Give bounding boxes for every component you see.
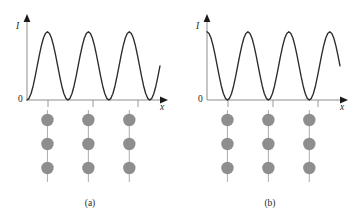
- panel-a-lattice: [0, 108, 180, 193]
- caption-b: (b): [180, 199, 360, 209]
- lattice-atom-dot: [221, 162, 233, 174]
- lattice-atom-dot: [303, 162, 315, 174]
- panel-a-axes: [24, 14, 168, 103]
- lattice-atom-dot: [303, 138, 315, 150]
- origin-label-b: 0: [198, 95, 203, 105]
- lattice-atom-dot: [221, 114, 233, 126]
- origin-label-a: 0: [18, 95, 23, 105]
- lattice-atom-dot: [41, 114, 53, 126]
- lattice-atom-dot: [262, 138, 274, 150]
- panel-b-lattice: [180, 108, 360, 193]
- lattice-atom-dot: [41, 138, 53, 150]
- lattice-atom-dot: [123, 162, 135, 174]
- intensity-curve-a: [27, 32, 160, 100]
- panel-a-xticks: [48, 100, 138, 107]
- lattice-atom-dot: [303, 114, 315, 126]
- lattice-atom-dot: [82, 114, 94, 126]
- panel-b-axes: [204, 14, 348, 103]
- x-axis-label-b: x: [340, 103, 344, 113]
- lattice-atom-dot: [262, 114, 274, 126]
- y-axis-label-b: I: [196, 22, 199, 32]
- intensity-curve-b: [207, 32, 340, 100]
- lattice-atom-dot: [82, 162, 94, 174]
- x-axis-label-a: x: [160, 103, 164, 113]
- diffraction-intensity-figure: I x 0 (a) I x 0 (b): [0, 0, 360, 223]
- caption-a: (a): [0, 199, 180, 209]
- panel-b: I x 0 (b): [180, 0, 360, 223]
- lattice-atom-dot: [221, 138, 233, 150]
- lattice-atom-dot: [262, 162, 274, 174]
- lattice-atom-dot: [41, 162, 53, 174]
- y-axis-label-a: I: [16, 22, 19, 32]
- lattice-atom-dot: [82, 138, 94, 150]
- panel-b-xticks: [228, 100, 318, 107]
- lattice-atom-dot: [123, 114, 135, 126]
- y-axis-arrow-b: [204, 14, 211, 22]
- panel-a: I x 0 (a): [0, 0, 180, 223]
- y-axis-arrow-a: [24, 14, 31, 22]
- lattice-atom-dot: [123, 138, 135, 150]
